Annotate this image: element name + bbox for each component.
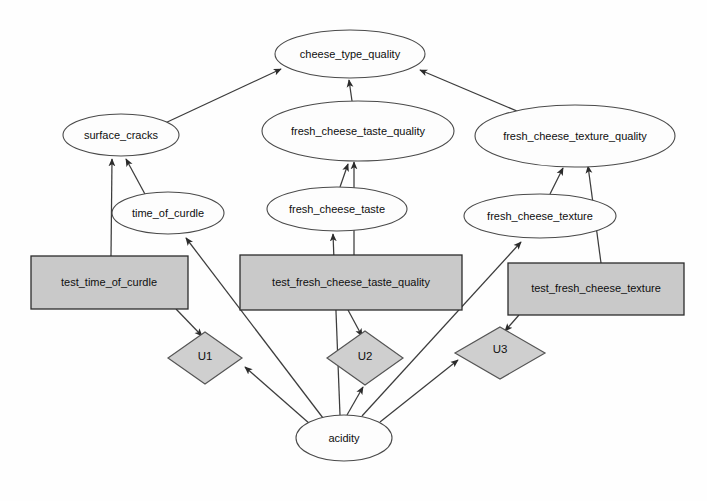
edge-surface-cracks-to-cheese-type-quality (163, 69, 281, 124)
edge-fresh-taste-to-fresh-taste-quality (340, 164, 348, 187)
node-surface-cracks[interactable]: surface_cracks (63, 114, 179, 156)
edge-fresh-texture-to-fresh-texture-quality (550, 168, 563, 194)
node-label-test-time-of-curdle: test_time_of_curdle (61, 276, 157, 288)
node-label-test-fresh-cheese-texture: test_fresh_cheese_texture (531, 282, 661, 294)
node-u1[interactable]: U1 (168, 332, 242, 384)
node-label-test-fresh-cheese-taste-quality: test_fresh_cheese_taste_quality (272, 276, 430, 288)
node-label-fresh-cheese-texture-quality: fresh_cheese_texture_quality (503, 130, 647, 142)
node-test-fresh-cheese-texture[interactable]: test_fresh_cheese_texture (508, 263, 684, 315)
node-label-u2: U2 (358, 350, 373, 362)
node-label-fresh-cheese-taste-quality: fresh_cheese_taste_quality (291, 125, 425, 137)
edge-time-of-curdle-to-surface-cracks (126, 159, 146, 196)
node-label-u1: U1 (198, 350, 213, 362)
edge-fresh-taste-quality-to-cheese-type-quality (349, 80, 352, 101)
node-label-acidity: acidity (328, 432, 360, 444)
node-label-cheese-type-quality: cheese_type_quality (300, 48, 401, 60)
node-cheese-type-quality[interactable]: cheese_type_quality (275, 30, 425, 78)
node-fresh-cheese-texture-quality[interactable]: fresh_cheese_texture_quality (475, 105, 675, 167)
node-time-of-curdle[interactable]: time_of_curdle (112, 192, 224, 234)
node-test-fresh-cheese-taste-quality[interactable]: test_fresh_cheese_taste_quality (240, 255, 462, 310)
node-test-time-of-curdle[interactable]: test_time_of_curdle (31, 256, 188, 309)
diagram-canvas: cheese_type_quality surface_cracks fresh… (0, 0, 707, 501)
node-label-fresh-cheese-taste: fresh_cheese_taste (289, 203, 385, 215)
node-fresh-cheese-texture[interactable]: fresh_cheese_texture (464, 194, 616, 238)
edge-acidity-to-u2 (347, 387, 363, 415)
node-label-time-of-curdle: time_of_curdle (132, 207, 204, 219)
edge-acidity-to-u3 (380, 360, 458, 422)
edge-test-time-of-curdle-to-surface-cracks (111, 159, 112, 256)
node-label-surface-cracks: surface_cracks (84, 129, 158, 141)
edge-acidity-to-u1 (245, 367, 310, 424)
node-fresh-cheese-taste[interactable]: fresh_cheese_taste (267, 187, 407, 231)
node-u3[interactable]: U3 (455, 327, 545, 379)
node-fresh-cheese-taste-quality[interactable]: fresh_cheese_taste_quality (262, 101, 454, 161)
node-acidity[interactable]: acidity (296, 415, 392, 461)
edge-test-time-of-curdle-to-u1 (176, 309, 202, 336)
edge-test-fresh-texture-to-u3 (505, 315, 519, 331)
edge-fresh-texture-quality-to-cheese-type-quality (420, 70, 524, 114)
edge-test-fresh-taste-quality-to-u2 (348, 310, 362, 336)
causal-graph: cheese_type_quality surface_cracks fresh… (0, 0, 707, 501)
node-label-u3: U3 (493, 343, 508, 355)
node-label-fresh-cheese-texture: fresh_cheese_texture (487, 210, 593, 222)
